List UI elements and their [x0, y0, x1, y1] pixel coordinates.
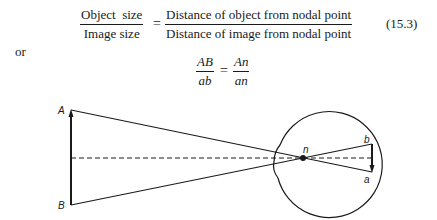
label-B: B	[58, 200, 65, 211]
label-a: a	[364, 174, 370, 185]
nodal-point	[300, 155, 306, 161]
ray-from-B	[71, 144, 372, 205]
label-A: A	[57, 105, 65, 116]
label-n: n	[303, 144, 309, 155]
eye-nodal-point-diagram: A B n b a	[0, 0, 437, 220]
label-b: b	[364, 134, 370, 145]
eye-outline	[274, 112, 383, 218]
ray-from-A	[71, 110, 372, 172]
